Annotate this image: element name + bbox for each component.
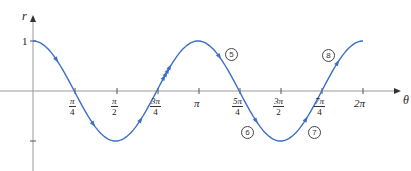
y-axis-label: r xyxy=(22,9,27,24)
y-tick-label-1: 1 xyxy=(22,35,28,47)
y-axis-arrow-icon xyxy=(30,15,36,22)
polar-function-plot xyxy=(0,0,411,171)
x-axis-arrow-icon xyxy=(394,88,401,94)
x-tick-label-pi-over-2: π2 xyxy=(111,96,118,117)
x-tick-label-pi: π xyxy=(194,98,200,108)
x-tick-label-3pi-over-2: 3π2 xyxy=(273,96,284,117)
x-tick-label-7pi-over-4: 7π4 xyxy=(314,96,325,117)
x-axis-label: θ xyxy=(403,93,409,108)
x-tick-label-3pi-over-4: 3π4 xyxy=(150,96,161,117)
segment-marker-7: 7 xyxy=(308,126,321,139)
segment-marker-5: 5 xyxy=(225,48,238,61)
x-tick-label-pi-over-4: π4 xyxy=(69,96,76,117)
x-tick-label-5pi-over-4: 5π4 xyxy=(232,96,243,117)
x-tick-label-2pi: 2π xyxy=(354,98,365,108)
segment-marker-8: 8 xyxy=(322,49,335,62)
segment-marker-6: 6 xyxy=(241,126,254,139)
